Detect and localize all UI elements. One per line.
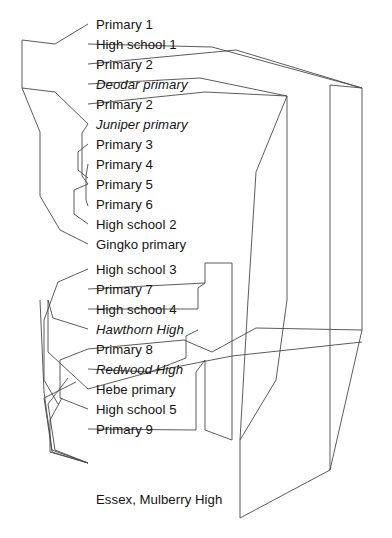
leaf-label: Primary 9 <box>96 423 153 436</box>
leaf-label: Primary 3 <box>96 138 153 151</box>
leaf-label: Primary 5 <box>96 178 153 191</box>
leaf-label: Essex, Mulberry High <box>96 493 222 506</box>
leaf-label: Gingko primary <box>96 238 186 251</box>
leaf-label: Hawthorn High <box>96 323 184 336</box>
leaf-label: Primary 6 <box>96 198 153 211</box>
leaf-label: High school 2 <box>96 218 177 231</box>
leaf-label: High school 1 <box>96 38 177 51</box>
leaf-label: Primary 1 <box>96 18 153 31</box>
leaf-label: Primary 2 <box>96 98 153 111</box>
leaf-label: Primary 2 <box>96 58 153 71</box>
leaf-label: Redwood High <box>96 363 183 376</box>
leaf-label: Primary 4 <box>96 158 153 171</box>
dendrogram-leaf-labels: Primary 1High school 1Primary 2Deodar pr… <box>0 0 392 538</box>
leaf-label: Deodar primary <box>96 78 188 91</box>
leaf-label: High school 5 <box>96 403 177 416</box>
dendrogram-canvas: Primary 1High school 1Primary 2Deodar pr… <box>0 0 392 538</box>
leaf-label: Primary 8 <box>96 343 153 356</box>
leaf-label: High school 4 <box>96 303 177 316</box>
leaf-label: Primary 7 <box>96 283 153 296</box>
leaf-label: Juniper primary <box>96 118 188 131</box>
leaf-label: Hebe primary <box>96 383 176 396</box>
leaf-label: High school 3 <box>96 263 177 276</box>
